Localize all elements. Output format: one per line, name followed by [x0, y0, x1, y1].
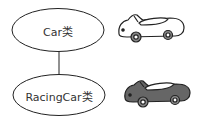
car-class-label: Car类 [12, 23, 104, 39]
car-filled-icon [125, 81, 190, 107]
car-outline-icon [119, 15, 184, 42]
racingcar-class-label: RacingCar类 [13, 88, 105, 104]
